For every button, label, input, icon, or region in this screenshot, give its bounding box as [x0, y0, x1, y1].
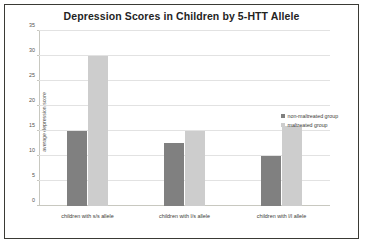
- chart-legend: non-maltreated groupmaltreated group: [281, 113, 359, 131]
- y-tick-label: 0: [32, 197, 35, 203]
- y-tick-label: 30: [29, 47, 35, 53]
- bar-group: children with l/s allele: [136, 31, 233, 206]
- bar: [88, 56, 109, 206]
- bar: [67, 131, 88, 206]
- y-tick-label: 5: [32, 172, 35, 178]
- bar: [185, 131, 206, 206]
- bar: [261, 156, 282, 206]
- y-tick-label: 15: [29, 122, 35, 128]
- category-label: children with l/l allele: [257, 213, 306, 219]
- chart-figure: Depression Scores in Children by 5-HTT A…: [4, 4, 359, 239]
- y-tick-label: 35: [29, 22, 35, 28]
- bar: [282, 126, 303, 206]
- legend-swatch-icon: [281, 123, 285, 127]
- y-tick-label: 20: [29, 97, 35, 103]
- category-label: children with s/s allele: [61, 213, 113, 219]
- category-label: children with l/s allele: [159, 213, 210, 219]
- legend-item[interactable]: non-maltreated group: [281, 113, 359, 119]
- y-tick-label: 25: [29, 72, 35, 78]
- chart-title: Depression Scores in Children by 5-HTT A…: [5, 10, 358, 22]
- legend-label: maltreated group: [288, 122, 328, 128]
- legend-label: non-maltreated group: [288, 113, 339, 119]
- legend-swatch-icon: [281, 114, 285, 118]
- legend-item[interactable]: maltreated group: [281, 122, 359, 128]
- bar: [164, 143, 185, 207]
- bar-group: children with s/s allele: [39, 31, 136, 206]
- y-tick-label: 10: [29, 147, 35, 153]
